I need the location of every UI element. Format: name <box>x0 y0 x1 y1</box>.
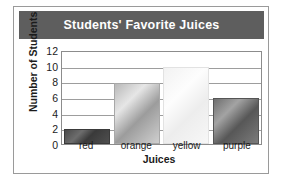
bar-yellow <box>163 67 209 144</box>
x-tick-label-yellow: yellow <box>163 140 209 151</box>
chart-title-banner: Students' Favorite Juices <box>19 11 264 39</box>
x-tick-label-orange: orange <box>113 140 159 151</box>
x-axis-tick-labels: redorangeyellowpurple <box>61 140 262 151</box>
chart-title: Students' Favorite Juices <box>64 18 220 32</box>
bar-orange <box>114 83 160 144</box>
y-tick-label: 4 <box>34 108 58 120</box>
bar-slot-purple <box>213 52 259 144</box>
x-tick-label-purple: purple <box>214 140 260 151</box>
y-tick-label: 12 <box>34 45 58 57</box>
bar-series <box>62 52 261 144</box>
bar-purple <box>213 98 259 144</box>
plot-area <box>61 51 262 145</box>
chart-figure: Students' Favorite Juices Number of Stud… <box>13 6 269 174</box>
y-tick-label: 8 <box>34 76 58 88</box>
x-axis-title: Juices <box>54 153 264 165</box>
y-tick-label: 10 <box>34 61 58 73</box>
y-axis-tick-labels: 024681012 <box>34 51 58 150</box>
y-tick-label: 2 <box>34 123 58 135</box>
x-tick-label-red: red <box>63 140 109 151</box>
bar-slot-yellow <box>163 52 209 144</box>
bar-slot-orange <box>114 52 160 144</box>
y-tick-label: 0 <box>34 139 58 151</box>
y-tick-label: 6 <box>34 92 58 104</box>
bar-slot-red <box>64 52 110 144</box>
